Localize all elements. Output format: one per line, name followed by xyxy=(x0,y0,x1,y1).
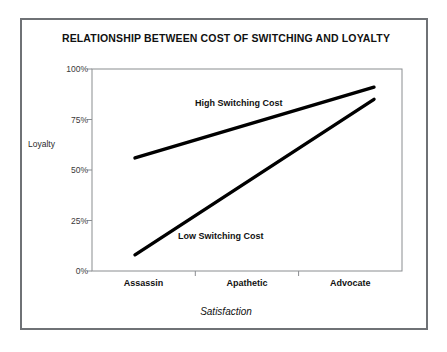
y-axis-label-50: 50% xyxy=(42,165,88,175)
x-axis-label-assassin: Assassin xyxy=(124,278,164,288)
x-axis-ticks xyxy=(195,271,298,276)
series-annotation-high-switching-cost: High Switching Cost xyxy=(195,98,283,108)
y-axis-title: Loyalty xyxy=(28,139,55,149)
x-axis-tick-labels: Assassin Apathetic Advocate xyxy=(92,278,402,298)
y-axis-tick-labels: 100% 75% 50% 25% 0% xyxy=(38,20,88,332)
y-axis-label-100: 100% xyxy=(42,64,88,74)
x-axis-label-apathetic: Apathetic xyxy=(226,278,267,288)
figure-frame: RELATIONSHIP BETWEEN COST OF SWITCHING A… xyxy=(20,18,428,330)
series-annotation-low-switching-cost: Low Switching Cost xyxy=(178,231,264,241)
y-axis-label-75: 75% xyxy=(42,115,88,125)
y-axis-label-0: 0% xyxy=(42,266,88,276)
x-axis-label-advocate: Advocate xyxy=(330,278,371,288)
chart-figure: RELATIONSHIP BETWEEN COST OF SWITCHING A… xyxy=(0,0,447,352)
x-axis-title: Satisfaction xyxy=(22,306,430,317)
y-axis-label-25: 25% xyxy=(42,216,88,226)
